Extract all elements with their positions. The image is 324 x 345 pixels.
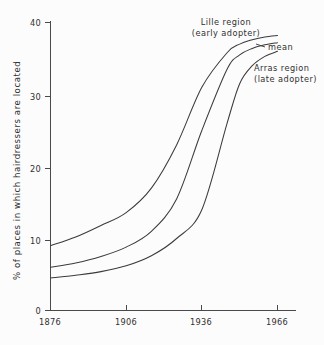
y-tick-label-40: 40	[30, 18, 41, 28]
chart-svg: 0 10 20 30 40 1876 1906 1936 1966 % of p…	[0, 0, 324, 345]
annotation-lille-line1: Lille region	[201, 17, 251, 27]
y-tick-label-20: 20	[30, 164, 41, 174]
x-tick-label-1936: 1936	[190, 317, 212, 327]
y-tick-label-30: 30	[30, 92, 41, 102]
annotation-arras-line2: (late adopter)	[254, 74, 317, 84]
x-tick-label-1966: 1966	[266, 317, 288, 327]
y-tick-label-10: 10	[30, 236, 41, 246]
chart-figure: 0 10 20 30 40 1876 1906 1936 1966 % of p…	[0, 0, 324, 345]
y-axis-label: % of places in which hairdressers are lo…	[12, 61, 22, 280]
annotation-mean-line1: mean	[268, 42, 293, 52]
x-tick-label-1876: 1876	[39, 317, 61, 327]
y-tick-label-0: 0	[35, 306, 41, 316]
x-tick-label-1906: 1906	[115, 317, 137, 327]
annotation-arras-line1: Arras region	[254, 63, 309, 73]
annotation-lille-line2: (early adopter)	[192, 28, 260, 38]
